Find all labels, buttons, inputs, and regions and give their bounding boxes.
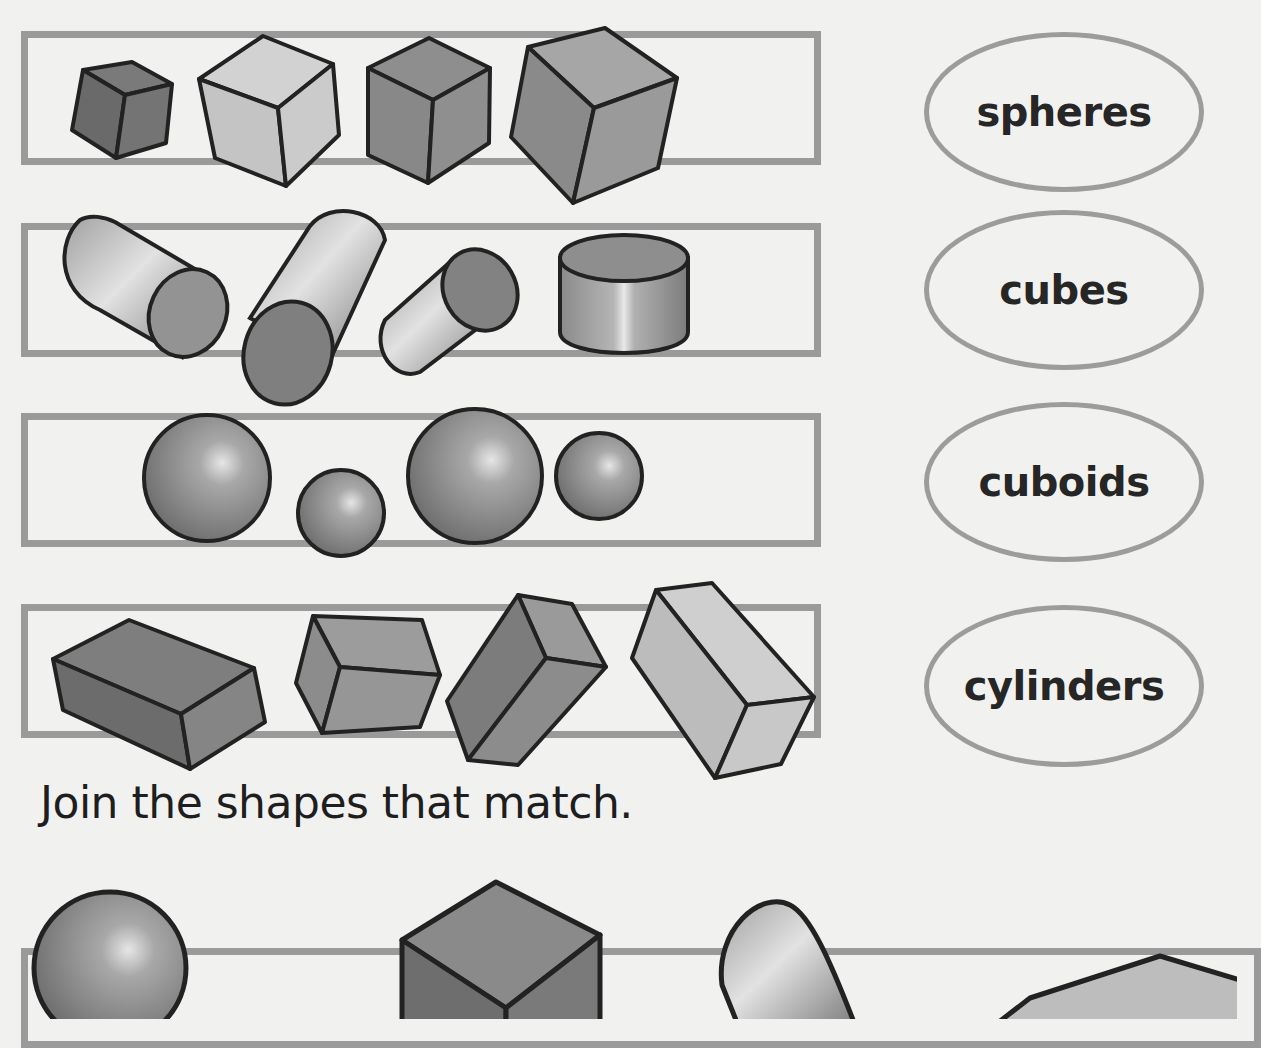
label-cubes-text: cubes — [999, 267, 1128, 313]
label-cylinders-text: cylinders — [964, 663, 1164, 709]
bottom-cuboid-shape[interactable] — [995, 956, 1237, 1019]
label-cuboids-text: cuboids — [979, 459, 1150, 505]
sphere-shape-2[interactable] — [298, 470, 384, 556]
cuboid-shape-tilted[interactable] — [447, 595, 606, 765]
cylinder-shape-horizontal[interactable] — [64, 217, 241, 370]
cube-shape-large[interactable] — [511, 28, 677, 203]
cuboid-shape-large-light[interactable] — [632, 583, 814, 778]
cube-shape-mid[interactable] — [368, 38, 490, 183]
cylinder-shape-tilted[interactable] — [232, 211, 385, 415]
sphere-shape-4[interactable] — [556, 433, 642, 519]
cylinder-shape-upright[interactable] — [560, 235, 688, 353]
label-cuboids[interactable]: cuboids — [924, 402, 1204, 562]
label-cylinders[interactable]: cylinders — [924, 605, 1204, 767]
cube-shape-light[interactable] — [199, 36, 339, 186]
label-spheres-text: spheres — [976, 89, 1151, 135]
bottom-cube-shape[interactable] — [402, 882, 600, 1019]
label-spheres[interactable]: spheres — [924, 32, 1204, 192]
sphere-shape-3[interactable] — [408, 409, 542, 543]
cylinder-shape-small[interactable] — [380, 236, 532, 374]
cuboid-shape-small[interactable] — [296, 616, 440, 733]
instruction-text: Join the shapes that match. — [40, 777, 633, 828]
cuboid-shape-flat[interactable] — [53, 620, 265, 769]
cube-shape-small-dark[interactable] — [72, 62, 172, 158]
sphere-shape-1[interactable] — [144, 415, 270, 541]
bottom-cylinder-shape[interactable] — [721, 902, 855, 1019]
label-cubes[interactable]: cubes — [924, 210, 1204, 370]
bottom-sphere-shape[interactable] — [34, 892, 186, 1019]
